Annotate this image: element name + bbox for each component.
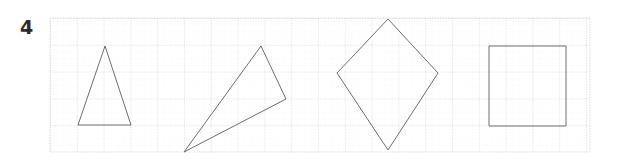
worksheet-page: 4	[0, 0, 620, 164]
major-gridlines	[50, 18, 590, 152]
grid-background	[50, 18, 590, 152]
figure-area	[0, 0, 620, 164]
geometry-figure-svg	[0, 0, 620, 164]
